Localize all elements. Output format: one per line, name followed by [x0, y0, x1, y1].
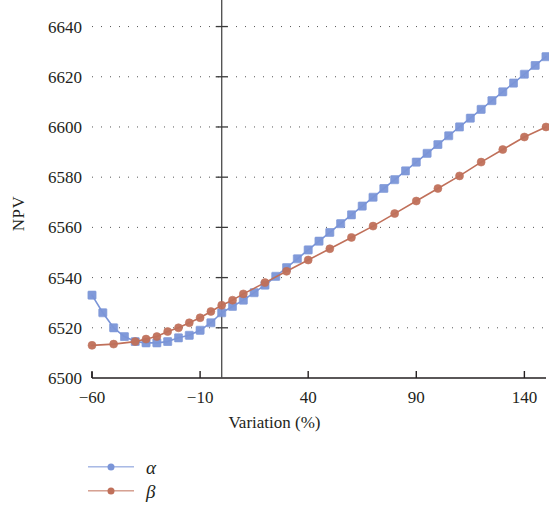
- data-point-marker: [380, 184, 388, 192]
- data-point-marker: [239, 290, 247, 298]
- data-point-marker: [391, 210, 399, 218]
- data-point-marker: [174, 334, 182, 342]
- data-point-marker: [304, 246, 312, 254]
- data-point-marker: [456, 172, 464, 180]
- data-point-marker: [445, 132, 453, 140]
- data-point-marker: [315, 237, 323, 245]
- data-point-marker: [542, 53, 549, 61]
- data-point-marker: [196, 326, 204, 334]
- data-point-marker: [185, 319, 193, 327]
- data-point-marker: [218, 309, 226, 317]
- y-tick-label: 6500: [14, 370, 82, 387]
- y-tick-label: 6600: [14, 118, 82, 135]
- x-tick-label: −60: [79, 389, 106, 406]
- x-axis-title: Variation (%): [0, 414, 549, 431]
- x-tick-label: −10: [187, 389, 214, 406]
- data-point-marker: [434, 184, 442, 192]
- data-point-marker: [110, 324, 118, 332]
- data-point-marker: [347, 233, 355, 241]
- data-point-marker: [466, 114, 474, 122]
- data-point-marker: [174, 324, 182, 332]
- data-point-marker: [131, 338, 139, 346]
- data-point-marker: [196, 314, 204, 322]
- data-point-marker: [326, 228, 334, 236]
- data-point-marker: [88, 291, 96, 299]
- legend-marker-icon: [88, 483, 134, 499]
- data-point-marker: [412, 158, 420, 166]
- data-point-marker: [423, 149, 431, 157]
- data-point-marker: [347, 211, 355, 219]
- y-tick-label: 6640: [14, 18, 82, 35]
- data-point-marker: [207, 307, 215, 315]
- data-point-marker: [293, 255, 301, 263]
- data-point-marker: [207, 319, 215, 327]
- legend-item-2[interactable]: β: [88, 479, 288, 503]
- data-point-marker: [369, 193, 377, 201]
- legend-marker-icon: [88, 459, 134, 475]
- data-point-marker: [164, 328, 172, 336]
- data-point-marker: [488, 97, 496, 105]
- y-axis-title: NPV: [10, 184, 27, 244]
- data-point-marker: [164, 338, 172, 346]
- npv-sensitivity-chart: 65006520654065606580660066206640 −60−104…: [0, 0, 549, 510]
- x-tick-label: 40: [300, 389, 317, 406]
- data-point-marker: [477, 105, 485, 113]
- data-point-marker: [110, 340, 118, 348]
- data-point-marker: [283, 267, 291, 275]
- data-point-marker: [520, 133, 528, 141]
- y-tick-label: 6540: [14, 269, 82, 286]
- data-point-marker: [88, 341, 96, 349]
- data-point-marker: [499, 88, 507, 96]
- data-point-marker: [499, 146, 507, 154]
- data-point-marker: [99, 309, 107, 317]
- plot-canvas: [0, 0, 549, 445]
- legend-label: α: [146, 458, 156, 477]
- data-point-marker: [369, 222, 377, 230]
- data-point-marker: [185, 331, 193, 339]
- data-point-marker: [229, 296, 237, 304]
- legend-item-1[interactable]: α: [88, 455, 288, 479]
- y-tick-label: 6520: [14, 319, 82, 336]
- data-point-marker: [542, 123, 549, 131]
- plot-area: 65006520654065606580660066206640 −60−104…: [0, 0, 549, 445]
- chart-legend: αβ: [88, 455, 288, 503]
- data-point-marker: [509, 79, 517, 87]
- x-tick-label: 90: [408, 389, 425, 406]
- data-point-marker: [520, 70, 528, 78]
- data-point-marker: [531, 61, 539, 69]
- data-point-marker: [326, 245, 334, 253]
- data-point-marker: [153, 333, 161, 341]
- data-point-marker: [120, 332, 128, 340]
- data-point-marker: [337, 220, 345, 228]
- data-point-marker: [142, 335, 150, 343]
- legend-label: β: [146, 482, 155, 501]
- data-point-marker: [358, 202, 366, 210]
- data-point-marker: [401, 167, 409, 175]
- data-point-marker: [455, 123, 463, 131]
- y-tick-label: 6620: [14, 68, 82, 85]
- data-point-marker: [391, 176, 399, 184]
- data-point-marker: [434, 140, 442, 148]
- data-point-marker: [412, 197, 420, 205]
- series-line-1: [92, 57, 546, 343]
- data-point-marker: [477, 158, 485, 166]
- data-point-marker: [261, 279, 269, 287]
- x-tick-label: 140: [512, 389, 538, 406]
- data-point-marker: [218, 301, 226, 309]
- data-point-marker: [304, 256, 312, 264]
